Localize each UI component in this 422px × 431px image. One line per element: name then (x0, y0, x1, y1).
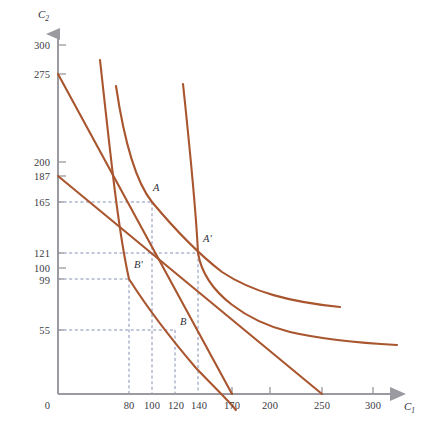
y-tick-label-275: 275 (12, 69, 50, 80)
point-label-B-prime: B' (134, 259, 143, 270)
point-label-A: A (153, 182, 159, 193)
y-tick-label-200: 200 (12, 157, 50, 168)
y-axis-title-sub: 2 (45, 14, 49, 23)
x-tick-label-250: 250 (314, 400, 330, 411)
x-tick-label-100: 100 (144, 400, 160, 411)
x-tick-marks (232, 387, 373, 394)
x-tick-label-120: 120 (168, 400, 184, 411)
y-tick-label-187: 187 (12, 171, 50, 182)
x-axis-title: C1 (404, 400, 415, 415)
chart-plot-area (0, 0, 422, 431)
y-tick-label-99: 99 (12, 275, 50, 286)
x-tick-label-80: 80 (124, 400, 135, 411)
y-tick-label-165: 165 (12, 197, 50, 208)
x-tick-label-140: 140 (191, 400, 207, 411)
y-tick-label-55: 55 (12, 325, 50, 336)
y-tick-label-0: 0 (12, 400, 50, 411)
y-axis-title: C2 (38, 8, 49, 23)
point-label-B: B (180, 316, 186, 327)
x-tick-label-200: 200 (262, 400, 278, 411)
y-tick-label-300: 300 (12, 40, 50, 51)
y-tick-label-121: 121 (12, 248, 50, 259)
x-tick-label-170: 170 (224, 400, 240, 411)
indifference-curve-lower (116, 86, 340, 307)
point-label-A-prime: A' (203, 233, 212, 244)
y-tick-label-100: 100 (12, 263, 50, 274)
x-tick-label-300: 300 (365, 400, 381, 411)
x-axis-title-sub: 1 (411, 406, 415, 415)
indifference-curve-figure: 300 275 200 187 165 121 100 99 55 0 80 1… (0, 0, 422, 431)
